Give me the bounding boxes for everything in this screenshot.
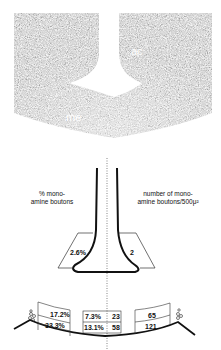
schematic-diagram: % mono- amine boutons number of mono- am… bbox=[0, 150, 221, 350]
micrograph: V ac me bbox=[14, 13, 212, 145]
right-caption: number of mono- amine boutons/500μ² bbox=[128, 190, 208, 206]
lower-mid-right-top-value: 23 bbox=[112, 313, 120, 320]
ac-label: ac bbox=[131, 45, 143, 57]
micrograph-image bbox=[14, 13, 212, 145]
lower-mid-left-bottom-value: 13.1% bbox=[84, 324, 104, 331]
right-cell-cluster-icon bbox=[177, 309, 183, 320]
me-label: me bbox=[66, 111, 81, 123]
lower-right-top-value: 65 bbox=[148, 312, 156, 319]
schematic-lines bbox=[0, 150, 221, 350]
upper-right-value: 2 bbox=[130, 249, 134, 256]
lower-left-top-value: 17.2% bbox=[50, 311, 70, 318]
lower-mid-right-bottom-value: 58 bbox=[112, 324, 120, 331]
ventricle-outline bbox=[73, 168, 138, 272]
lower-left-bottom-value: 33.3% bbox=[45, 322, 65, 329]
left-caption: % mono- amine boutons bbox=[22, 190, 82, 206]
lower-right-bottom-value: 121 bbox=[145, 323, 157, 330]
ventricle-label: V bbox=[102, 68, 109, 80]
lower-mid-left-top-value: 7.3% bbox=[85, 313, 101, 320]
upper-left-value: 2.6% bbox=[70, 249, 86, 256]
median-eminence-outline bbox=[14, 320, 195, 336]
